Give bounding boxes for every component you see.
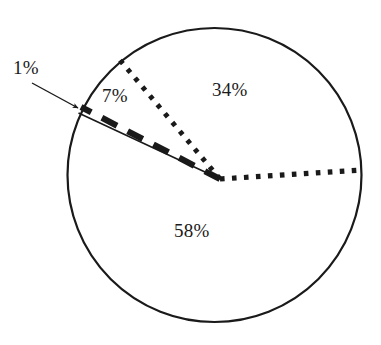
pie-chart-graphic (0, 0, 381, 345)
slice-label-7: 7% (102, 86, 128, 105)
slice-label-34: 34% (212, 80, 247, 99)
pie-chart: 34% 58% 7% 1% (0, 0, 381, 345)
slice-label-1-callout: 1% (13, 58, 39, 77)
callout-arrow-1pct (32, 83, 78, 108)
slice-label-58: 58% (174, 221, 209, 240)
